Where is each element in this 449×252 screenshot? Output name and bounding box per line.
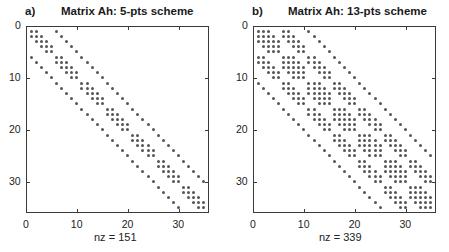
nonzero-marker [384, 134, 387, 137]
nonzero-marker [147, 123, 150, 126]
nonzero-marker [338, 82, 341, 85]
nonzero-marker [292, 56, 295, 59]
nonzero-marker [363, 170, 366, 173]
nonzero-marker [287, 66, 290, 69]
nonzero-marker [167, 175, 170, 178]
nonzero-marker [379, 175, 382, 178]
nonzero-marker [86, 87, 89, 90]
panel-a: a) Matrix Ah: 5-pts scheme nz = 151 0102… [0, 0, 225, 252]
panel-label: b) [252, 5, 263, 17]
nonzero-marker [307, 87, 310, 90]
nonzero-marker [363, 139, 366, 142]
nonzero-marker [379, 149, 382, 152]
x-tick [77, 209, 78, 212]
nonzero-marker [424, 196, 427, 199]
nonzero-marker [348, 175, 351, 178]
nonzero-marker [379, 128, 382, 131]
nonzero-marker [353, 180, 356, 183]
nonzero-marker [318, 118, 321, 121]
nonzero-marker [131, 160, 134, 163]
nonzero-marker [353, 118, 356, 121]
nonzero-marker [131, 108, 134, 111]
nonzero-marker [328, 50, 331, 53]
nonzero-marker [101, 128, 104, 131]
nonzero-marker [307, 108, 310, 111]
nonzero-marker [70, 76, 73, 79]
nonzero-marker [409, 196, 412, 199]
nonzero-marker [414, 196, 417, 199]
nonzero-marker [363, 113, 366, 116]
nonzero-marker [262, 35, 265, 38]
nonzero-marker [282, 82, 285, 85]
nonzero-marker [394, 170, 397, 173]
nonzero-marker [379, 180, 382, 183]
nonzero-marker [60, 87, 63, 90]
nonzero-marker [374, 118, 377, 121]
nonzero-marker [358, 134, 361, 137]
nonzero-marker [307, 92, 310, 95]
nonzero-marker [358, 186, 361, 189]
x-tick-label: 10 [71, 218, 83, 230]
nonzero-marker [172, 201, 175, 204]
nonzero-marker [318, 66, 321, 69]
nonzero-marker [70, 45, 73, 48]
nonzero-marker [328, 92, 331, 95]
nonzero-marker [348, 144, 351, 147]
nonzero-marker [348, 71, 351, 74]
nonzero-marker [35, 40, 38, 43]
nonzero-marker [404, 154, 407, 157]
nonzero-marker [187, 165, 190, 168]
nonzero-marker [297, 50, 300, 53]
nonzero-marker [111, 118, 114, 121]
nonzero-marker [389, 191, 392, 194]
nonzero-marker [287, 92, 290, 95]
nonzero-marker [399, 196, 402, 199]
nonzero-marker [394, 165, 397, 168]
nonzero-marker [389, 139, 392, 142]
nonzero-marker [343, 118, 346, 121]
nonzero-marker [172, 180, 175, 183]
nonzero-marker [167, 144, 170, 147]
nonzero-marker [297, 61, 300, 64]
nonzero-marker [409, 134, 412, 137]
nonzero-marker [318, 71, 321, 74]
nonzero-marker [338, 87, 341, 90]
nonzero-marker [287, 82, 290, 85]
nonzero-marker [35, 61, 38, 64]
nonzero-marker [177, 175, 180, 178]
nonzero-marker [287, 113, 290, 116]
nonzero-marker [141, 170, 144, 173]
nonzero-marker [348, 97, 351, 100]
nonzero-marker [368, 118, 371, 121]
nonzero-marker [187, 196, 190, 199]
nonzero-marker [333, 134, 336, 137]
nonzero-marker [136, 139, 139, 142]
panel-b: b) Matrix Ah: 13-pts scheme nz = 339 010… [225, 0, 449, 252]
nonzero-marker [121, 128, 124, 131]
nonzero-marker [358, 144, 361, 147]
nonzero-marker [75, 76, 78, 79]
nonzero-marker [136, 113, 139, 116]
nonzero-marker [363, 149, 366, 152]
nonzero-marker [182, 186, 185, 189]
nonzero-marker [353, 102, 356, 105]
nonzero-marker [70, 66, 73, 69]
nonzero-marker [277, 76, 280, 79]
nonzero-marker [338, 165, 341, 168]
nonzero-marker [328, 71, 331, 74]
nonzero-marker [282, 35, 285, 38]
nonzero-marker [419, 196, 422, 199]
nonzero-marker [267, 40, 270, 43]
nonzero-marker [197, 175, 200, 178]
nonzero-marker [80, 108, 83, 111]
nonzero-marker [141, 139, 144, 142]
nonzero-marker [162, 170, 165, 173]
nonzero-marker [384, 186, 387, 189]
nonzero-marker [318, 102, 321, 105]
nonzero-marker [272, 45, 275, 48]
nonzero-marker [328, 123, 331, 126]
nonzero-marker [323, 102, 326, 105]
nonzero-marker [343, 123, 346, 126]
nonzero-marker [30, 35, 33, 38]
nonzero-marker [399, 144, 402, 147]
